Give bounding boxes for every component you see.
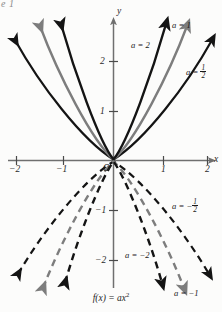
y-axis-label: y: [117, 6, 121, 16]
caption-exponent: 2: [126, 291, 129, 298]
origin-label: O: [103, 163, 110, 173]
parabola-family-chart: [0, 0, 222, 312]
y-tick-label-neg1: −1: [95, 205, 106, 215]
figure-caption: f(x) = ax2: [0, 291, 222, 303]
fraction-denominator: 2: [200, 72, 206, 79]
caption-function-text: f(x) = ax: [93, 293, 126, 303]
y-tick-label-2: 2: [100, 56, 105, 66]
fraction-neg-one-half: 12: [192, 198, 198, 214]
fraction-denominator: 2: [192, 206, 198, 213]
curve-label-a-2: a = 2: [131, 40, 150, 50]
x-tick-label-1: 1: [161, 164, 166, 174]
curve-label-a-neg-half: a = −12: [172, 198, 198, 214]
curve-label-a-half-prefix: a =: [186, 67, 200, 77]
x-tick-label-2: 2: [205, 164, 210, 174]
x-axis-label: x: [214, 154, 218, 164]
fraction-one-half: 12: [200, 64, 206, 80]
x-tick-label-neg1: −1: [56, 164, 67, 174]
y-tick-label-1: 1: [100, 106, 105, 116]
x-tick-label-neg2: −2: [9, 164, 20, 174]
curve-label-a-half: a = 12: [186, 64, 206, 80]
curve-label-a-neg-half-prefix: a = −: [172, 201, 192, 211]
y-tick-label-neg2: −2: [95, 255, 106, 265]
curve-label-a-1: a = 1: [172, 20, 191, 30]
curve-label-a-neg-2: a = −2: [125, 250, 150, 260]
